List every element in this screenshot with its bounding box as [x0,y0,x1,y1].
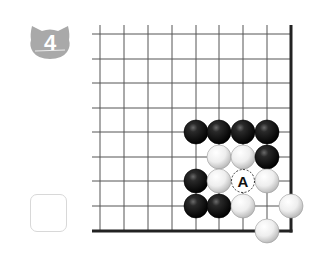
markers-layer: A [232,170,255,193]
black-stone[interactable] [207,194,231,218]
black-stone[interactable] [207,120,231,144]
go-board: A [0,0,316,253]
point-marker-label: A [238,173,249,190]
black-stone[interactable] [255,145,279,169]
white-stone[interactable] [207,145,231,169]
white-stone[interactable] [255,169,279,193]
white-stone[interactable] [207,169,231,193]
black-stone[interactable] [231,120,255,144]
white-stone[interactable] [231,145,255,169]
white-stone[interactable] [279,194,303,218]
black-stone[interactable] [255,120,279,144]
black-stone[interactable] [184,120,208,144]
black-stone[interactable] [184,169,208,193]
white-stone[interactable] [255,219,279,243]
white-stone[interactable] [231,194,255,218]
black-stone[interactable] [184,194,208,218]
